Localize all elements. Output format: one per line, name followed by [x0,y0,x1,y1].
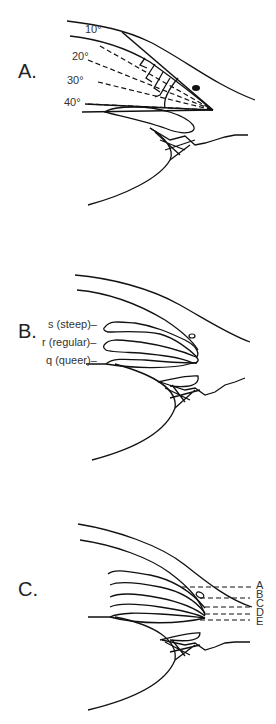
panel-b: B. s (steep)– r (regular)– q (queer)– [0,260,276,480]
level-label-e: E [256,617,263,626]
angle-width-diagram [0,0,276,250]
angle-label-30: 30° [67,74,84,86]
panel-a: A. 10° 20° 30° 40° [0,0,276,250]
panel-label-a: A. [18,60,37,83]
panel-label-c: C. [18,578,38,601]
panel-label-b: B. [18,320,37,343]
config-label-queer: q (queer)– [46,354,97,366]
config-label-regular: r (regular)– [42,336,96,348]
panel-c: C. A B C D E [0,490,276,724]
angle-label-10: 10° [85,23,102,35]
insertion-level-diagram [0,490,276,724]
angle-label-20: 20° [72,50,89,62]
angle-label-40: 40° [64,96,81,108]
iris-configuration-diagram [0,260,276,480]
config-label-steep: s (steep)– [48,318,97,330]
